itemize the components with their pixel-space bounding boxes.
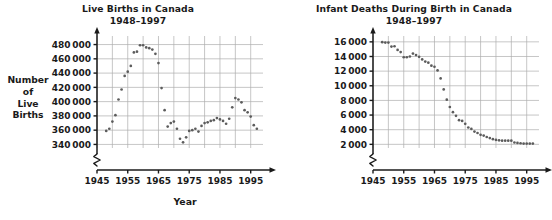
data-point [111, 120, 114, 123]
data-point [225, 122, 228, 125]
data-point [405, 56, 408, 59]
data-point [498, 139, 501, 142]
data-point [197, 130, 200, 133]
data-point [234, 97, 237, 100]
data-point [240, 101, 243, 104]
data-point [439, 77, 442, 80]
data-point [139, 44, 142, 47]
data-point [402, 56, 405, 59]
data-point [510, 139, 513, 142]
data-point [532, 142, 535, 145]
data-point [237, 98, 240, 101]
figure-pair: Live Births in Canada 1948–1997 Number o… [0, 0, 552, 220]
y-tick-label: 440 000 [52, 68, 91, 78]
x-tick-label: 1985 [483, 176, 508, 186]
data-point [243, 109, 246, 112]
x-tick-label: 1945 [84, 176, 109, 186]
data-point [449, 106, 452, 109]
y-tick-label: 14 000 [334, 52, 367, 62]
data-point [430, 64, 433, 67]
data-point [206, 121, 209, 124]
data-point [433, 65, 436, 68]
y-tick-label: 4 000 [340, 125, 367, 135]
data-point [495, 139, 498, 142]
data-point [476, 132, 479, 135]
data-point [504, 139, 507, 142]
data-point [421, 58, 424, 61]
x-tick-label: 1955 [391, 176, 416, 186]
x-tick-label: 1955 [115, 176, 140, 186]
data-point [105, 130, 108, 133]
data-point [176, 127, 179, 130]
data-point [126, 70, 129, 73]
y-tick-label: 16 000 [334, 37, 367, 47]
data-point [458, 119, 461, 122]
data-point [528, 142, 531, 145]
data-point [415, 54, 418, 57]
data-point [393, 45, 396, 48]
chart-panel-live-births: Live Births in Canada 1948–1997 Number o… [0, 0, 276, 220]
data-point [129, 65, 132, 68]
data-point [418, 56, 421, 59]
y-tick-label: 8 000 [340, 96, 367, 106]
data-point [390, 45, 393, 48]
data-point [133, 51, 136, 54]
x-tick-label: 1945 [360, 176, 385, 186]
data-point [219, 118, 222, 121]
data-point [154, 52, 157, 55]
data-point [246, 111, 249, 114]
data-point [470, 128, 473, 131]
data-point [436, 69, 439, 72]
data-point [117, 98, 120, 101]
data-point [427, 61, 430, 64]
data-point [157, 62, 160, 65]
data-point [169, 122, 172, 125]
data-point [409, 55, 412, 58]
data-point [461, 120, 464, 123]
data-point [442, 88, 445, 91]
data-point [173, 120, 176, 123]
scatter-plot-live-births: 340 000360 000380 000400 000420 000440 0… [0, 0, 276, 220]
x-tick-label: 1965 [422, 176, 447, 186]
data-point [114, 114, 117, 117]
data-point [179, 137, 182, 140]
data-point [396, 49, 399, 52]
x-tick-label: 1975 [177, 176, 202, 186]
data-point [516, 142, 519, 145]
x-tick-label: 1965 [146, 176, 171, 186]
data-point [249, 115, 252, 118]
data-point [120, 88, 123, 91]
data-point [522, 142, 525, 145]
x-tick-label: 1995 [238, 176, 263, 186]
data-point [513, 141, 516, 144]
chart-panel-infant-deaths: Infant Deaths During Birth in Canada 194… [276, 0, 552, 220]
data-point [399, 51, 402, 54]
data-point [123, 75, 126, 78]
data-point [200, 125, 203, 128]
data-point [525, 142, 528, 145]
y-tick-label: 2 000 [340, 140, 367, 150]
data-point [188, 130, 191, 133]
data-point [381, 41, 384, 44]
data-point [108, 127, 111, 130]
data-point [384, 41, 387, 44]
y-tick-label: 380 000 [52, 111, 91, 121]
y-tick-label: 460 000 [52, 54, 91, 64]
data-point [492, 138, 495, 141]
data-point [151, 48, 154, 51]
data-point [455, 114, 458, 117]
data-point [473, 130, 476, 133]
x-tick-label: 1975 [453, 176, 478, 186]
data-point [142, 44, 145, 47]
x-axis-label-live-births: Year [100, 196, 270, 207]
data-point [145, 46, 148, 49]
data-point [507, 139, 510, 142]
data-point [387, 41, 390, 44]
data-point [212, 119, 215, 122]
y-tick-label: 6 000 [340, 110, 367, 120]
y-tick-label: 340 000 [52, 140, 91, 150]
data-point [464, 122, 467, 125]
y-tick-label: 10 000 [334, 81, 367, 91]
data-point [136, 50, 139, 53]
y-tick-label: 420 000 [52, 83, 91, 93]
